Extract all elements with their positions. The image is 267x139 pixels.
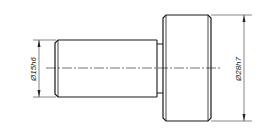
relief-groove (157, 40, 163, 97)
technical-drawing: Ø15h6 Ø28h7 (0, 0, 267, 139)
shaft-outline (55, 40, 157, 97)
dimension-label-head: Ø28h7 (234, 56, 243, 82)
dimension-shaft-diameter: Ø15h6 (29, 40, 56, 97)
dimension-head-diameter: Ø28h7 (211, 15, 252, 121)
dimension-label-shaft: Ø15h6 (29, 56, 38, 82)
